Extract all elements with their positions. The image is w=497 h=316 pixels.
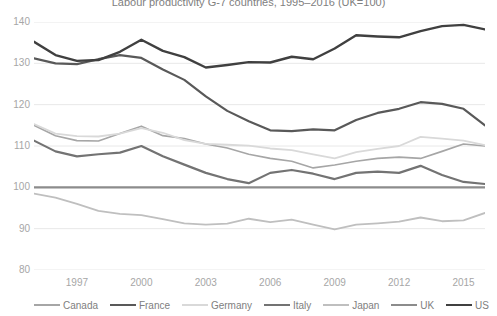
legend-label: Italy: [293, 300, 311, 311]
x-axis-tick-label: 2006: [250, 277, 290, 288]
legend-swatch-icon: [34, 304, 60, 306]
legend-swatch-icon: [323, 304, 349, 306]
legend-swatch-icon: [182, 304, 208, 306]
chart-legend: CanadaFranceGermanyItalyJapanUKUS: [34, 297, 489, 313]
legend-item-italy[interactable]: Italy: [264, 300, 311, 311]
legend-item-uk[interactable]: UK: [391, 300, 434, 311]
x-axis-tick-label: 2003: [186, 277, 226, 288]
legend-item-us[interactable]: US: [446, 300, 489, 311]
x-axis-tick-label: 2009: [315, 277, 355, 288]
x-axis-tick-label: 2012: [379, 277, 419, 288]
x-axis-tick-label: 2015: [444, 277, 484, 288]
legend-label: Germany: [211, 300, 252, 311]
legend-item-france[interactable]: France: [110, 300, 170, 311]
legend-swatch-icon: [264, 304, 290, 306]
legend-swatch-icon: [391, 304, 417, 306]
x-axis-tick-label: 1997: [57, 277, 97, 288]
legend-item-canada[interactable]: Canada: [34, 300, 98, 311]
legend-item-germany[interactable]: Germany: [182, 300, 252, 311]
legend-label: France: [139, 300, 170, 311]
chart-container: Labour productivity G-7 countries, 1995–…: [0, 0, 497, 316]
legend-label: Japan: [352, 300, 379, 311]
x-axis-labels: 1997200020032006200920122015: [0, 0, 497, 316]
legend-swatch-icon: [110, 304, 136, 306]
legend-item-japan[interactable]: Japan: [323, 300, 379, 311]
x-axis-tick-label: 2000: [121, 277, 161, 288]
legend-swatch-icon: [446, 304, 472, 306]
legend-label: Canada: [63, 300, 98, 311]
legend-label: US: [475, 300, 489, 311]
legend-label: UK: [420, 300, 434, 311]
